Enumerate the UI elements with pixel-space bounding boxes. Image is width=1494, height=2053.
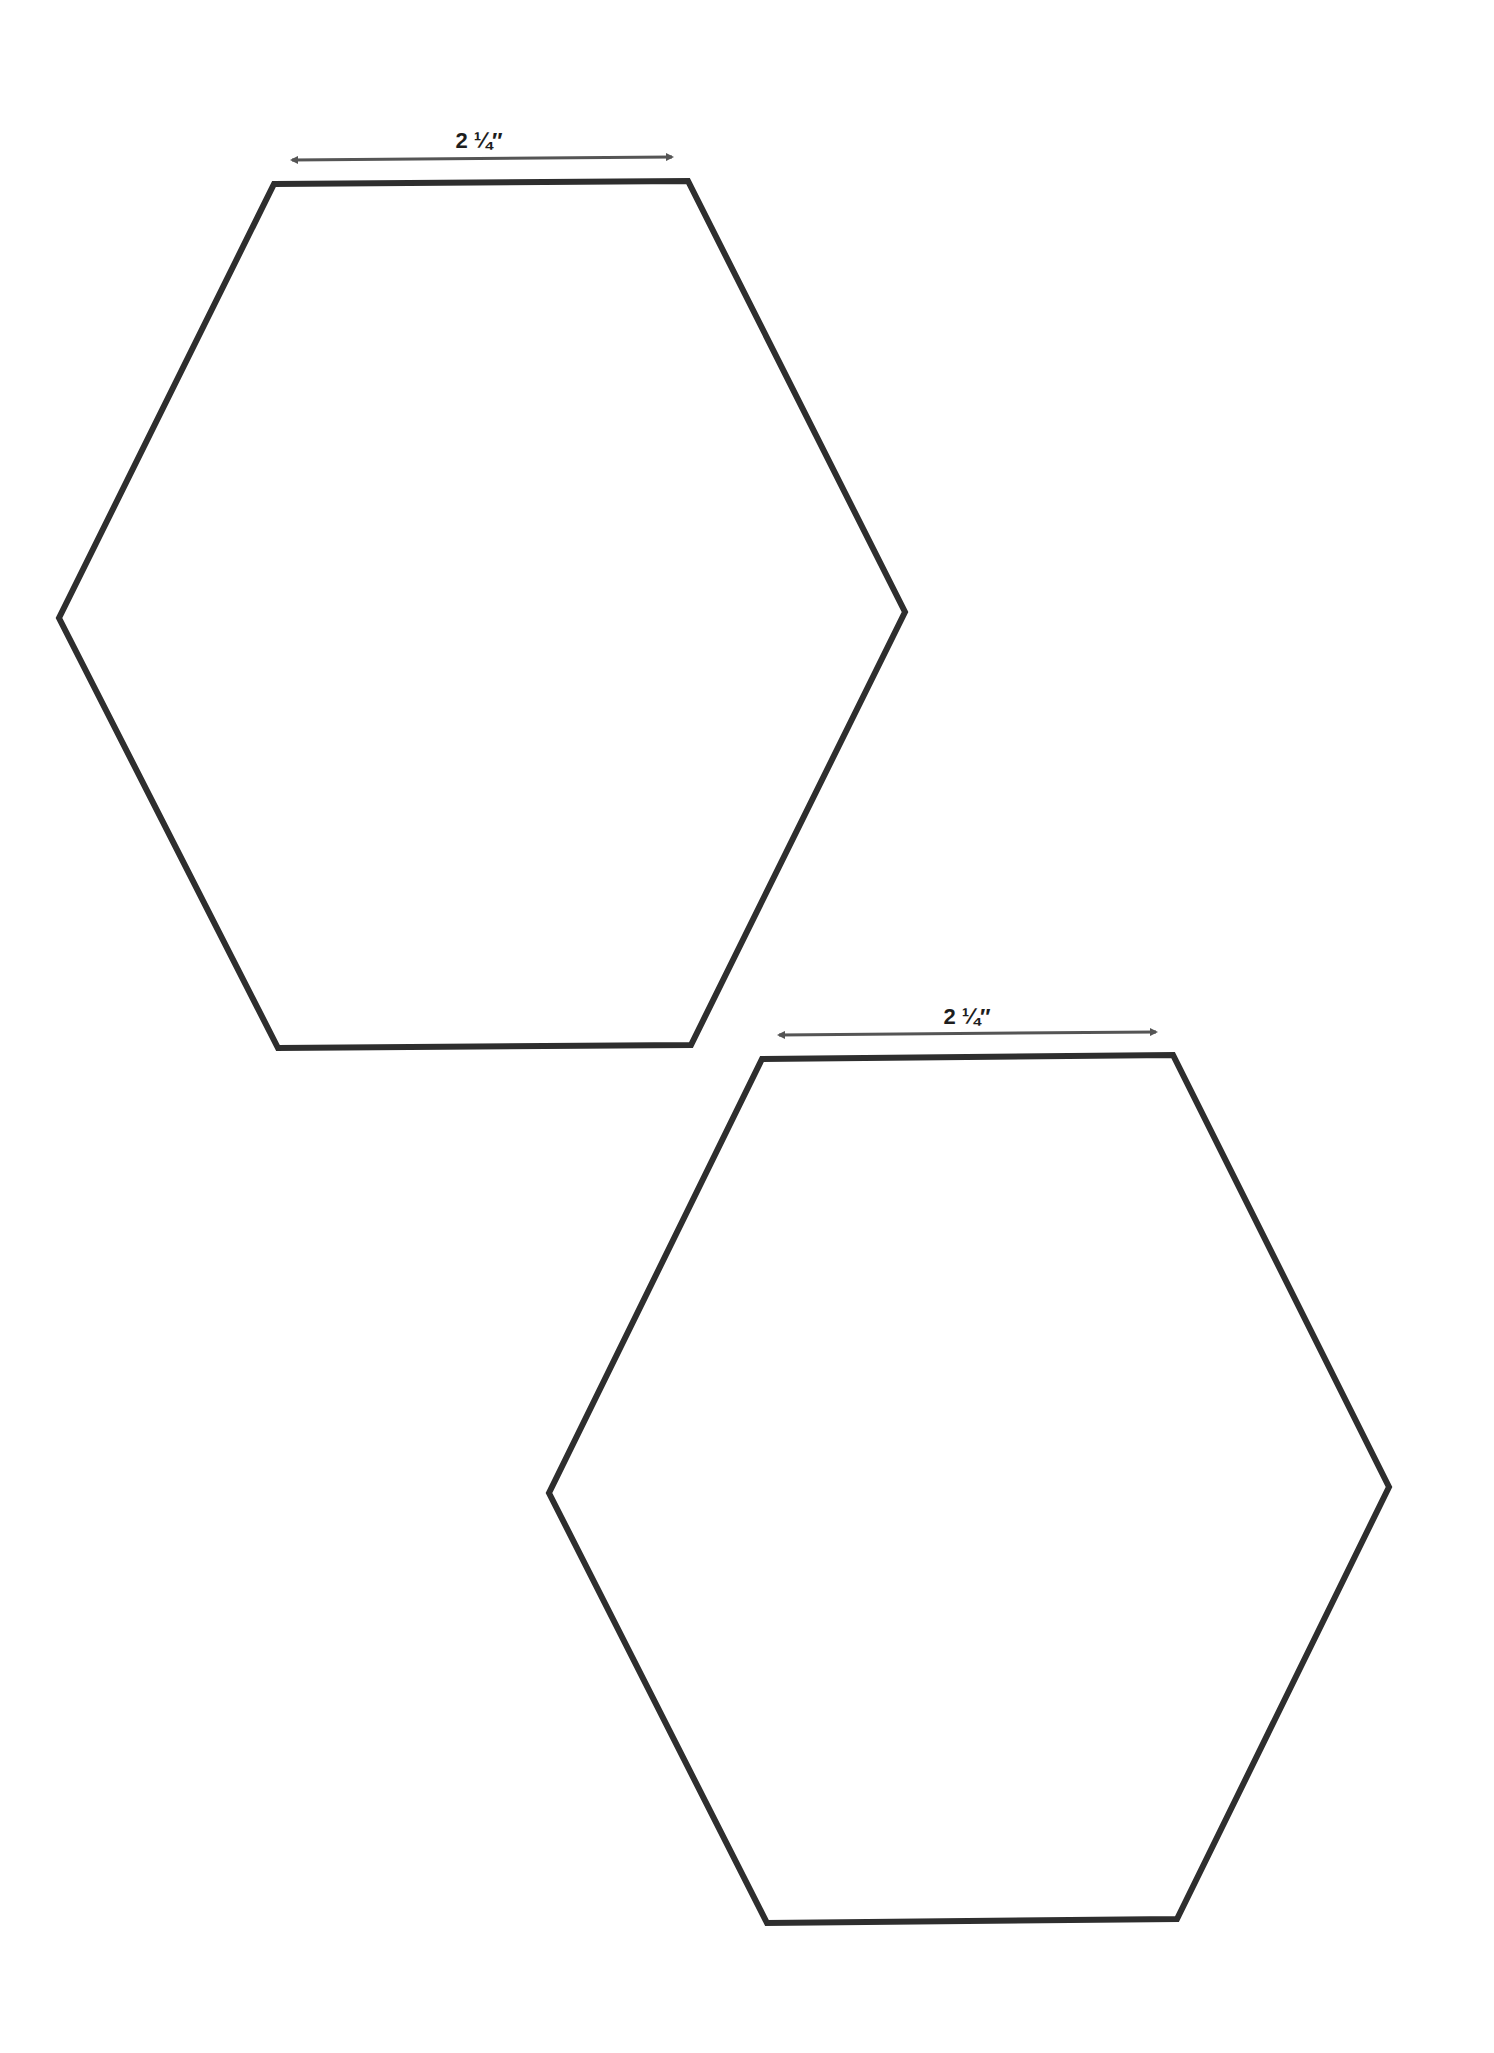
dimension-label: 2 ¼″ [943, 1004, 991, 1029]
dimension-arrow [779, 1032, 1156, 1035]
hexagon-shape [549, 1055, 1389, 1923]
dimension-label: 2 ¼″ [455, 128, 503, 153]
template-page: 2 ¼″ 2 ¼″ [0, 0, 1494, 2053]
hexagon-shape [59, 181, 905, 1048]
hexagon-template-1: 2 ¼″ [59, 128, 905, 1048]
dimension-arrow [292, 157, 672, 160]
hexagon-template-2: 2 ¼″ [549, 1004, 1389, 1923]
